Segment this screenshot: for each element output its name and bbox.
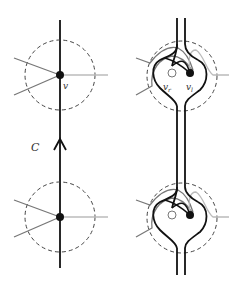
vertex-vr-bottom	[168, 211, 176, 219]
left-panel: C v	[14, 20, 108, 268]
vertex-bottom	[56, 213, 64, 221]
vertex-vr-label: vr	[163, 82, 172, 93]
vertex-vl-label: vl	[186, 82, 193, 93]
vertex-vr-top	[168, 69, 176, 77]
vertex-label: v	[63, 81, 68, 91]
curve-label: C	[31, 141, 40, 154]
strand-right-top	[185, 18, 198, 60]
diagram-svg: C v vr vl	[0, 0, 244, 285]
vertex-vl-top	[186, 69, 194, 77]
light-edge-rerouted-b	[189, 192, 229, 217]
dark-edge-top-lower	[14, 75, 60, 95]
dark-edge-bottom-upper	[14, 200, 60, 217]
right-panel: vr vl	[136, 18, 229, 275]
dark-edge-bottom-lower	[14, 217, 60, 237]
vertex-vl-bottom	[186, 211, 194, 219]
vertex-top	[56, 71, 64, 79]
dark-edge-top-upper	[14, 58, 60, 75]
diagram: C v vr vl	[0, 0, 244, 285]
light-edge-rerouted	[189, 50, 229, 75]
